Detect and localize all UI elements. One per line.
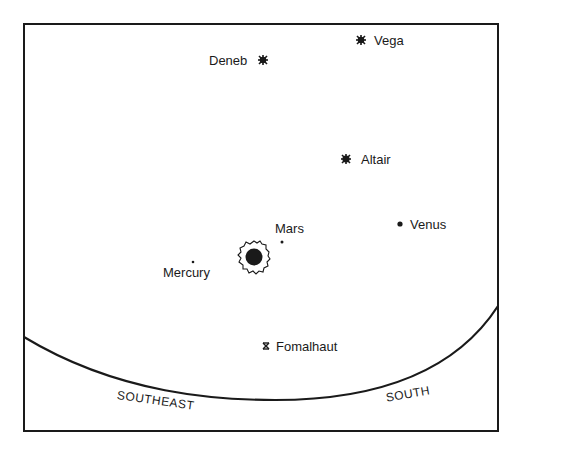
fomalhaut-label: Fomalhaut — [276, 340, 337, 353]
mercury-label: Mercury — [163, 266, 210, 279]
vega-label: Vega — [374, 34, 404, 47]
venus-dot-icon — [397, 221, 402, 226]
mercury-dot-icon — [192, 261, 195, 264]
venus-label: Venus — [410, 218, 446, 231]
mars-dot-icon — [281, 241, 284, 244]
sun-icon — [238, 241, 270, 274]
altair-star-icon — [341, 154, 351, 164]
fomalhaut-star-icon — [263, 343, 269, 349]
altair-label: Altair — [361, 153, 391, 166]
mars-label: Mars — [275, 222, 304, 235]
deneb-star-icon — [258, 55, 268, 65]
vega-star-icon — [356, 35, 366, 45]
deneb-label: Deneb — [209, 54, 247, 67]
